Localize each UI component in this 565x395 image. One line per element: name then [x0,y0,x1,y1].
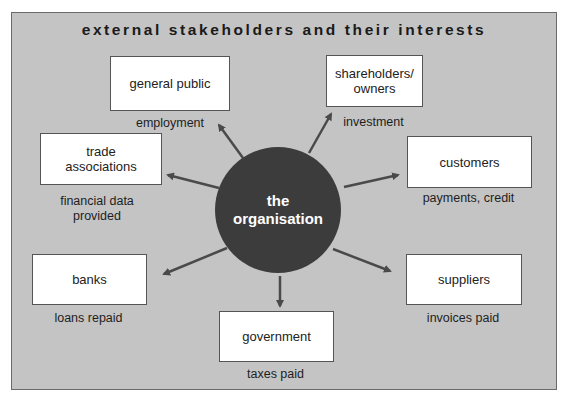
stakeholder-interest: employment [110,116,230,131]
stakeholder-interest: payments, credit [407,191,530,206]
stakeholder-name: suppliers [438,272,490,287]
stakeholder-name: government [242,329,311,344]
arrow-customers [344,175,398,187]
stakeholder-box-government: government [219,311,334,362]
center-line1: the [267,192,290,210]
stakeholder-box-customers: customers [407,136,532,188]
organisation-circle: the organisation [215,147,341,273]
arrow-suppliers [333,249,390,271]
stakeholder-interest: invoices paid [406,311,520,326]
stakeholder-box-banks: banks [32,254,147,305]
stakeholder-box-shareholders: shareholders/ owners [326,55,423,107]
stakeholder-box-suppliers: suppliers [406,254,522,305]
stakeholder-name: general public [130,76,211,91]
stakeholder-box-trade-associations: trade associations [40,133,162,185]
stakeholder-name: customers [440,155,500,170]
stakeholder-box-general-public: general public [110,56,230,111]
stakeholder-name: trade associations [56,144,146,174]
stakeholder-interest: financial data provided [52,194,142,224]
stakeholder-interest: loans repaid [32,311,145,326]
arrow-banks [164,248,227,274]
stakeholder-interest: taxes paid [219,367,332,382]
center-line2: organisation [233,210,323,228]
stakeholder-name: shareholders/ owners [327,66,422,96]
arrow-trade-associations [168,175,219,188]
stakeholder-name: banks [72,272,107,287]
stakeholder-interest: investment [326,115,421,130]
